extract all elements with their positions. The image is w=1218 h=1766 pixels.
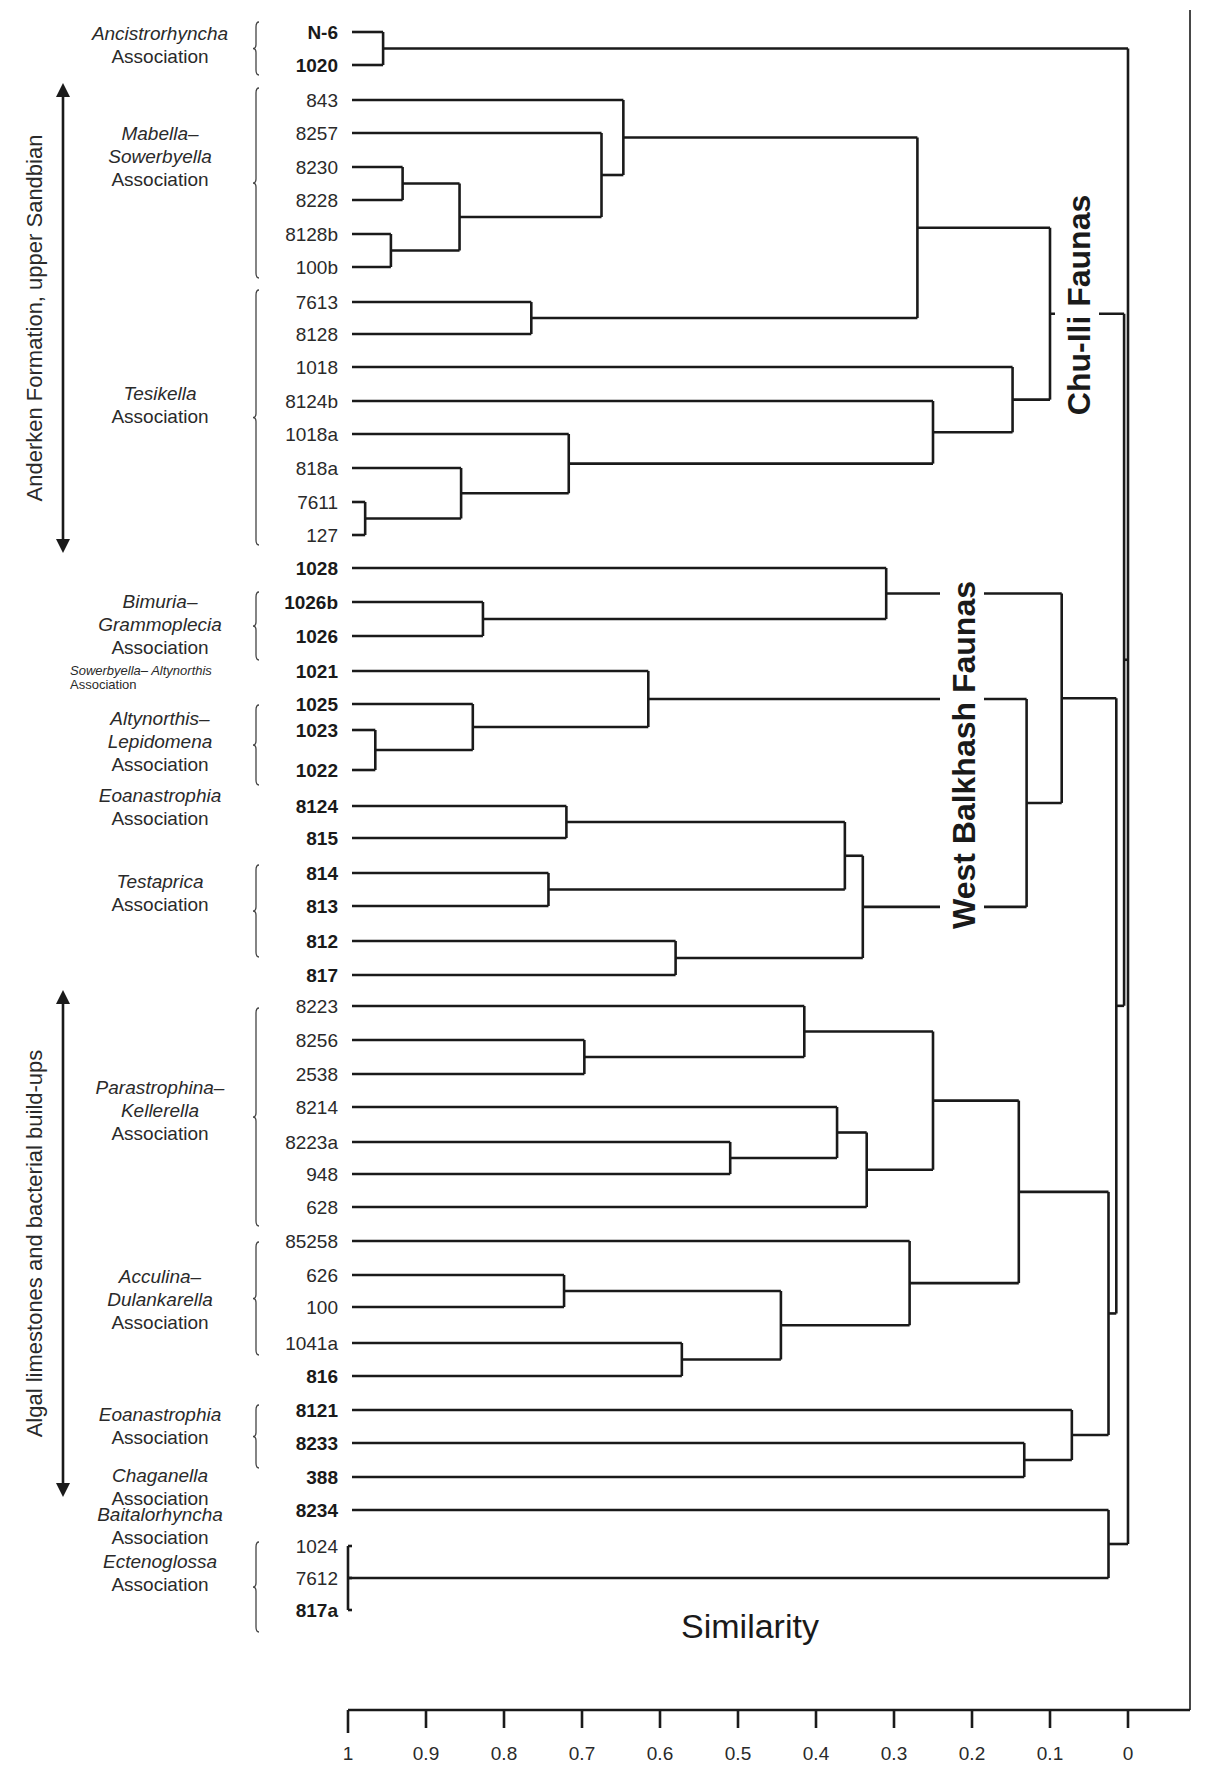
association-genus: Ancistrorhyncha	[91, 23, 228, 44]
x-axis-tick-label: 0.7	[569, 1743, 595, 1764]
leaf-label: 1025	[296, 694, 339, 715]
association-brace	[253, 1542, 259, 1632]
leaf-label: 8124	[296, 796, 339, 817]
fauna-label-west-balkhash: West Balkhash Faunas	[940, 555, 984, 955]
association-label: Sowerbyella– AltynorthisAssociation	[70, 663, 212, 692]
association-genus: Eoanastrophia	[99, 1404, 222, 1425]
leaf-label: 816	[306, 1366, 338, 1387]
x-axis-tick-label: 0.1	[1037, 1743, 1063, 1764]
stratigraphic-range-label: Anderken Formation, upper Sandbian	[22, 83, 70, 553]
west-balkhash-faunas-label: West Balkhash Faunas	[946, 581, 982, 929]
x-axis-title: Similarity	[681, 1607, 819, 1645]
leaf-label: 7611	[297, 492, 338, 513]
leaf-label: 1026	[296, 626, 338, 647]
stratigraphic-label-text: Anderken Formation, upper Sandbian	[22, 135, 47, 502]
leaf-label: N-6	[307, 22, 338, 43]
association-genus: Mabella–	[121, 123, 199, 144]
leaf-label: 1026b	[284, 592, 338, 613]
leaf-label: 8228	[296, 190, 338, 211]
association-genus: Tesikella	[123, 383, 196, 404]
association-label: TesikellaAssociation	[111, 290, 259, 545]
sample-leaf-labels: N-610208438257823082288128b100b761381281…	[284, 22, 338, 1621]
association-genus: Acculina–	[118, 1266, 202, 1287]
association-suffix: Association	[111, 894, 208, 915]
association-suffix: Association	[111, 1312, 208, 1333]
leaf-label: 814	[306, 863, 338, 884]
leaf-label: 127	[306, 525, 338, 546]
association-label: EoanastrophiaAssociation	[99, 1404, 259, 1468]
leaf-label: 85258	[285, 1231, 338, 1252]
association-suffix: Association	[111, 1123, 208, 1144]
x-axis-tick-label: 0.2	[959, 1743, 985, 1764]
leaf-label: 815	[306, 828, 338, 849]
association-suffix: Association	[111, 46, 208, 67]
association-genus: Bimuria–	[123, 591, 198, 612]
association-label: EoanastrophiaAssociation	[99, 785, 222, 829]
fauna-label-chu-ili: Chu-Ili Faunas	[1055, 170, 1099, 440]
association-brace	[253, 592, 259, 660]
association-label: TestapricaAssociation	[111, 865, 259, 957]
association-labels: AncistrorhynchaAssociationMabella–Sowerb…	[70, 22, 259, 1632]
association-genus: Ectenoglossa	[103, 1551, 217, 1572]
leaf-label: 8233	[296, 1433, 338, 1454]
leaf-label: 817a	[296, 1600, 339, 1621]
dendrogram-branches	[348, 32, 1128, 1610]
x-axis-tick-label: 0.9	[413, 1743, 439, 1764]
association-genus-2: Kellerella	[121, 1100, 199, 1121]
association-brace	[253, 705, 259, 785]
leaf-label: 7613	[296, 292, 338, 313]
association-suffix: Association	[111, 808, 208, 829]
x-axis-tick-label: 0	[1123, 1743, 1134, 1764]
association-suffix: Association	[111, 169, 208, 190]
leaf-label: 843	[306, 90, 338, 111]
association-genus: Testaprica	[117, 871, 204, 892]
association-label: Parastrophina–KellerellaAssociation	[96, 1008, 259, 1226]
association-genus: Altynorthis–	[109, 708, 210, 729]
leaf-label: 626	[306, 1265, 338, 1286]
stratigraphic-range-label: Algal limestones and bacterial build-ups	[22, 990, 70, 1497]
association-suffix: Association	[111, 406, 208, 427]
leaf-label: 1021	[296, 661, 339, 682]
leaf-label: 1028	[296, 558, 338, 579]
stratigraphic-label-text: Algal limestones and bacterial build-ups	[22, 1050, 47, 1438]
leaf-label: 948	[306, 1164, 338, 1185]
arrow-down-icon	[56, 1483, 70, 1497]
chu-ili-faunas-label: Chu-Ili Faunas	[1061, 195, 1097, 415]
leaf-label: 1018	[296, 357, 338, 378]
association-label: Bimuria–GrammopleciaAssociation	[98, 591, 259, 660]
association-genus: Sowerbyella– Altynorthis	[70, 663, 212, 678]
dendrogram-chart: Anderken Formation, upper SandbianAlgal …	[0, 0, 1218, 1766]
association-suffix: Association	[111, 1574, 208, 1595]
association-genus: Eoanastrophia	[99, 785, 222, 806]
association-genus: Baitalorhyncha	[97, 1504, 223, 1525]
association-brace	[253, 1242, 259, 1355]
association-genus-2: Lepidomena	[108, 731, 213, 752]
leaf-label: 8234	[296, 1500, 339, 1521]
association-brace	[253, 22, 259, 75]
x-axis-tick-label: 0.6	[647, 1743, 673, 1764]
leaf-label: 2538	[296, 1064, 338, 1085]
association-label: Acculina–DulankarellaAssociation	[107, 1242, 259, 1355]
x-axis-tick-label: 1	[343, 1743, 354, 1764]
leaf-label: 8128	[296, 324, 338, 345]
leaf-label: 1023	[296, 720, 338, 741]
leaf-label: 8121	[296, 1400, 339, 1421]
leaf-label: 8230	[296, 157, 338, 178]
leaf-label: 1020	[296, 55, 338, 76]
association-label: BaitalorhynchaAssociation	[97, 1504, 223, 1548]
leaf-label: 100b	[296, 257, 338, 278]
association-suffix: Association	[111, 754, 208, 775]
leaf-label: 8257	[296, 123, 338, 144]
arrow-down-icon	[56, 539, 70, 553]
leaf-label: 812	[306, 931, 338, 952]
association-brace	[253, 1405, 259, 1468]
leaf-label: 8223	[296, 996, 338, 1017]
leaf-label: 8214	[296, 1097, 339, 1118]
leaf-label: 818a	[296, 458, 339, 479]
arrow-up-icon	[56, 83, 70, 97]
leaf-label: 1024	[296, 1536, 339, 1557]
association-genus: Chaganella	[112, 1465, 208, 1486]
leaf-label: 1018a	[285, 424, 338, 445]
leaf-label: 388	[306, 1467, 338, 1488]
association-brace	[253, 88, 259, 278]
